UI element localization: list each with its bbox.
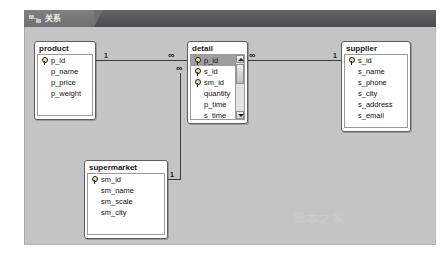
field-name: p_name xyxy=(51,68,78,76)
relationships-canvas[interactable]: 脚本之家 1 ∞ ∞ 1 ∞ 1 product p_id p_name xyxy=(24,27,436,245)
watermark: 脚本之家 xyxy=(293,209,345,226)
field-row[interactable]: s_phone xyxy=(345,77,407,88)
field-key-slot xyxy=(194,111,202,120)
field-name: s_id xyxy=(358,57,372,65)
cardinality-detail-many-a: ∞ xyxy=(168,53,177,59)
table-title: product xyxy=(35,42,95,54)
field-name: s_time xyxy=(204,112,226,120)
field-name: s_id xyxy=(204,68,218,76)
field-key-slot xyxy=(194,89,202,98)
field-list[interactable]: s_id s_name s_phone s_city s_address xyxy=(344,54,408,128)
relationships-window: 关系 脚本之家 1 ∞ ∞ 1 ∞ 1 product p_id xyxy=(0,0,444,262)
field-name: quantity xyxy=(204,90,230,98)
cardinality-detail-many-b: ∞ xyxy=(249,53,258,59)
field-row[interactable]: s_address xyxy=(345,99,407,110)
primary-key-icon xyxy=(348,56,356,65)
field-key-slot xyxy=(91,208,99,217)
field-key-slot xyxy=(91,197,99,206)
relationships-icon xyxy=(29,14,41,24)
cardinality-detail-many-c: ∞ xyxy=(176,66,185,72)
field-key-slot xyxy=(348,67,356,76)
table-supermarket[interactable]: supermarket sm_id sm_name sm_scale sm_ci… xyxy=(84,160,168,239)
field-name: p_id xyxy=(51,57,65,65)
field-name: sm_id xyxy=(101,176,121,184)
table-detail[interactable]: detail p_id s_id sm_id quantity xyxy=(187,41,248,124)
table-title: supplier xyxy=(342,42,410,54)
field-name: s_address xyxy=(358,101,393,109)
field-name: s_phone xyxy=(358,79,387,87)
field-list[interactable]: p_id s_id sm_id quantity p_time xyxy=(190,54,245,120)
field-key-slot xyxy=(91,186,99,195)
field-key-slot xyxy=(41,78,49,87)
field-name: s_email xyxy=(358,112,384,120)
field-list[interactable]: p_id p_name p_price p_weight xyxy=(37,54,93,116)
table-product[interactable]: product p_id p_name p_price p_weight xyxy=(34,41,96,120)
cardinality-supermarket-one: 1 xyxy=(170,171,174,178)
connector-detail-supplier[interactable] xyxy=(247,60,341,61)
field-row[interactable]: p_name xyxy=(38,66,92,77)
field-list[interactable]: sm_id sm_name sm_scale sm_city xyxy=(87,173,165,235)
field-key-slot xyxy=(348,100,356,109)
field-list-scrollbar[interactable] xyxy=(235,55,244,119)
field-row[interactable]: p_price xyxy=(38,77,92,88)
connector-detail-supermarket-vertical[interactable] xyxy=(180,73,181,179)
cardinality-product-one: 1 xyxy=(104,52,108,59)
tab-label: 关系 xyxy=(45,14,61,23)
field-key-slot xyxy=(348,111,356,120)
field-row[interactable]: s_name xyxy=(345,66,407,77)
table-title: supermarket xyxy=(85,161,167,173)
field-name: sm_id xyxy=(204,79,224,87)
field-row[interactable]: sm_city xyxy=(88,207,164,218)
field-name: sm_name xyxy=(101,187,134,195)
field-row[interactable]: p_weight xyxy=(38,88,92,99)
field-name: p_price xyxy=(51,79,76,87)
field-key-slot xyxy=(348,89,356,98)
table-supplier[interactable]: supplier s_id s_name s_phone s_city xyxy=(341,41,411,132)
field-name: sm_scale xyxy=(101,198,133,206)
connector-product-detail[interactable] xyxy=(95,60,187,61)
field-row[interactable]: p_id xyxy=(38,55,92,66)
field-name: sm_city xyxy=(101,209,126,217)
cardinality-supplier-one: 1 xyxy=(333,52,337,59)
field-row[interactable]: sm_scale xyxy=(88,196,164,207)
primary-key-icon xyxy=(194,56,202,65)
field-row[interactable]: s_city xyxy=(345,88,407,99)
field-name: s_city xyxy=(358,90,377,98)
primary-key-icon xyxy=(194,67,202,76)
field-name: p_time xyxy=(204,101,227,109)
connector-detail-supermarket-horizontal[interactable] xyxy=(168,179,181,180)
scroll-up-button[interactable] xyxy=(236,55,244,63)
field-name: s_name xyxy=(358,68,385,76)
scrollbar-thumb[interactable] xyxy=(236,64,244,84)
field-row[interactable]: s_email xyxy=(345,110,407,121)
tab-relationships[interactable]: 关系 xyxy=(24,10,94,27)
field-key-slot xyxy=(194,100,202,109)
field-row[interactable]: sm_name xyxy=(88,185,164,196)
field-name: p_id xyxy=(204,57,218,65)
field-key-slot xyxy=(348,78,356,87)
field-key-slot xyxy=(41,89,49,98)
field-row[interactable]: s_id xyxy=(345,55,407,66)
primary-key-icon xyxy=(41,56,49,65)
field-key-slot xyxy=(41,67,49,76)
scroll-down-button[interactable] xyxy=(236,111,244,119)
primary-key-icon xyxy=(91,175,99,184)
window-tabbar: 关系 xyxy=(24,10,436,27)
field-name: p_weight xyxy=(51,90,81,98)
primary-key-icon xyxy=(194,78,202,87)
table-title: detail xyxy=(188,42,247,54)
field-row[interactable]: sm_id xyxy=(88,174,164,185)
